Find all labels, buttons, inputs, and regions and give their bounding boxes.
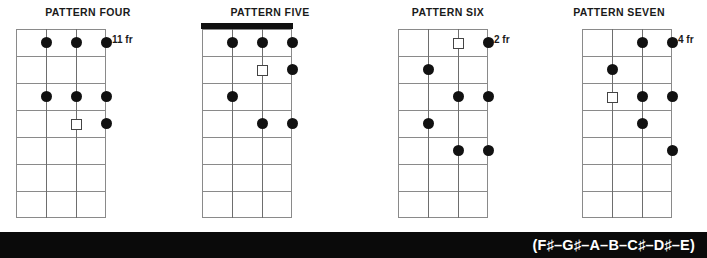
fret-line <box>582 110 672 111</box>
root-note-marker <box>257 65 268 76</box>
pattern-diagram: PATTERN SEVEN 4 fr <box>531 0 707 225</box>
string-line <box>46 29 47 218</box>
note-marker <box>637 118 648 129</box>
fret-line <box>582 164 672 165</box>
note-marker <box>287 37 298 48</box>
pattern-title: PATTERN SIX <box>360 6 536 18</box>
pattern-diagram: PATTERN SIX 2 fr <box>360 0 536 225</box>
fretboard <box>202 29 292 218</box>
fretboard <box>582 29 672 218</box>
fretboard <box>398 29 488 218</box>
fret-line <box>16 56 106 57</box>
fret-line <box>16 164 106 165</box>
fret-position-label: 11 fr <box>112 34 133 45</box>
note-marker <box>667 37 678 48</box>
fret-line <box>398 164 488 165</box>
fret-position-label: 4 fr <box>678 34 694 45</box>
note-marker <box>423 118 434 129</box>
note-marker <box>257 37 268 48</box>
fret-line <box>202 191 292 192</box>
note-marker <box>483 145 494 156</box>
fretboard-grid <box>398 29 488 218</box>
note-marker <box>637 37 648 48</box>
fretboard-grid <box>16 29 106 218</box>
note-marker <box>257 118 268 129</box>
note-marker <box>287 64 298 75</box>
scale-formula-label: (F♯–G♯–A–B–C♯–D♯–E) <box>532 237 695 253</box>
fret-line <box>582 83 672 84</box>
fret-line <box>202 83 292 84</box>
note-marker <box>667 145 678 156</box>
note-marker <box>227 37 238 48</box>
fret-line <box>398 137 488 138</box>
fret-line <box>398 191 488 192</box>
note-marker <box>101 118 112 129</box>
string-line <box>458 29 459 218</box>
root-note-marker <box>607 92 618 103</box>
note-marker <box>607 64 618 75</box>
note-marker <box>41 37 52 48</box>
pattern-diagram: PATTERN FIVE <box>182 0 358 225</box>
note-marker <box>287 118 298 129</box>
note-marker <box>483 91 494 102</box>
chord-pattern-sheet: PATTERN FOUR 11 fr PATTERN FIVE PATTERN … <box>0 0 707 258</box>
fret-line <box>582 191 672 192</box>
note-marker <box>423 64 434 75</box>
note-marker <box>453 91 464 102</box>
fret-line <box>16 137 106 138</box>
fret-line <box>582 137 672 138</box>
string-line <box>232 29 233 218</box>
pattern-diagram: PATTERN FOUR 11 fr <box>0 0 176 225</box>
note-marker <box>41 91 52 102</box>
fret-line <box>202 137 292 138</box>
fret-position-label: 2 fr <box>494 34 510 45</box>
fretboard <box>16 29 106 218</box>
note-marker <box>637 91 648 102</box>
note-marker <box>101 91 112 102</box>
note-marker <box>667 91 678 102</box>
note-marker <box>71 91 82 102</box>
fret-line <box>398 83 488 84</box>
note-marker <box>101 37 112 48</box>
fret-line <box>16 83 106 84</box>
fret-line <box>202 110 292 111</box>
note-marker <box>453 145 464 156</box>
fret-line <box>16 110 106 111</box>
note-marker <box>227 91 238 102</box>
string-line <box>612 29 613 218</box>
pattern-title: PATTERN FOUR <box>0 6 176 18</box>
fret-line <box>16 191 106 192</box>
fret-line <box>398 56 488 57</box>
pattern-title: PATTERN SEVEN <box>531 6 707 18</box>
root-note-marker <box>453 38 464 49</box>
fret-line <box>398 110 488 111</box>
nut-bar <box>201 23 293 29</box>
footer-band: (F♯–G♯–A–B–C♯–D♯–E) <box>0 232 707 258</box>
fretboard-grid <box>202 29 292 218</box>
fret-line <box>202 56 292 57</box>
fretboard-grid <box>582 29 672 218</box>
note-marker <box>71 37 82 48</box>
fret-line <box>582 56 672 57</box>
root-note-marker <box>71 119 82 130</box>
fret-line <box>202 164 292 165</box>
pattern-title: PATTERN FIVE <box>182 6 358 18</box>
note-marker <box>483 37 494 48</box>
